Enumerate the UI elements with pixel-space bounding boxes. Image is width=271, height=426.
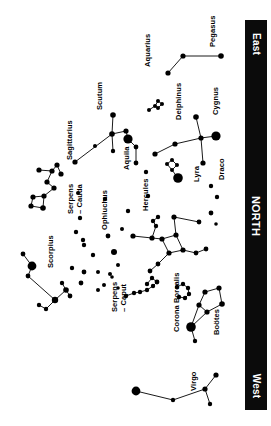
star-dot (134, 145, 139, 150)
horizon-label-north: NORTH (250, 196, 262, 236)
star-dot (151, 219, 155, 223)
star-dot (63, 287, 69, 293)
star-dot (109, 131, 115, 137)
star-dot (208, 402, 212, 406)
constellation-serpens-caput (124, 276, 160, 298)
star-dot (81, 238, 85, 242)
star-dot (197, 220, 202, 225)
star-dot (173, 173, 183, 183)
star-dot (159, 236, 164, 241)
star-dot (30, 194, 35, 199)
constellation-label: Corona Borealis (173, 273, 182, 332)
star-dot (26, 274, 31, 279)
constellation-label: Hercules (142, 179, 151, 212)
constellation-label: Scorpius (47, 235, 56, 268)
star-dot (209, 211, 214, 216)
star-dot (155, 280, 160, 285)
star-dot (106, 234, 111, 239)
constellation-line (205, 375, 216, 389)
horizon-label-east: East (251, 33, 262, 55)
constellation-delphinus (147, 99, 164, 112)
star-chart: PegasusAquariusScutumAquilaDelphinusCygn… (0, 0, 271, 426)
constellation-line (174, 217, 199, 222)
star-dot (193, 114, 199, 120)
constellation-label: Lyra (193, 166, 202, 182)
star-dot (41, 193, 46, 198)
constellation-label: Aquarius (144, 34, 153, 67)
star-dot (126, 209, 130, 213)
constellation-label: Draco (218, 158, 227, 180)
star-dot (152, 151, 157, 156)
constellation-label: Boötes (213, 309, 222, 335)
star-dot (156, 106, 160, 110)
constellation-label: Ophiuchus (101, 190, 110, 230)
star-dot (70, 266, 74, 270)
star-dot (134, 161, 139, 166)
constellation-hercules (130, 214, 208, 273)
constellation-cygnus (152, 114, 220, 165)
star-dot (180, 53, 185, 58)
constellation-lyra (165, 158, 183, 183)
star-dot (37, 303, 41, 307)
star-dot (172, 141, 177, 146)
constellation-label: Aquila (123, 146, 132, 170)
star-dot (202, 386, 207, 391)
constellation-label: Pegasus (209, 15, 218, 47)
star-dot (170, 158, 174, 162)
star-dot (219, 301, 225, 307)
star-dot (44, 307, 48, 311)
star-dot (36, 167, 41, 172)
star-dot (132, 291, 136, 295)
star-dot (170, 168, 174, 172)
star-dot (150, 276, 154, 280)
star-dot (28, 262, 37, 271)
constellation-ophiuchus (70, 234, 117, 286)
star-dot (147, 108, 151, 112)
star-dot (215, 195, 219, 199)
star-dot (156, 215, 160, 219)
star-dot (28, 203, 33, 208)
constellation-label: Serpens – Cauda (67, 184, 84, 214)
constellation-line (155, 144, 175, 154)
star-dot (183, 296, 187, 300)
star-dot (91, 253, 95, 257)
star-dot (171, 214, 176, 219)
star-dot (154, 224, 158, 228)
star-dot (116, 263, 120, 267)
star-dot (148, 269, 153, 274)
star-dot (79, 281, 84, 286)
constellation-serpens-cauda (74, 216, 85, 242)
star-dot (40, 205, 46, 211)
star-dot (173, 232, 178, 237)
star-dot (160, 102, 164, 106)
constellation-line (201, 138, 203, 163)
constellation-sagittarius (28, 162, 63, 210)
star-dot (96, 270, 100, 274)
star-dot (165, 162, 169, 166)
constellation-label: Scutum (96, 82, 105, 110)
star-dot (180, 247, 185, 252)
star-dot (78, 216, 82, 220)
star-dot (74, 230, 78, 234)
star-dot (200, 160, 205, 165)
constellation-line (136, 391, 173, 400)
constellation-virgo (132, 372, 219, 406)
star-dot (145, 288, 149, 292)
horizon-bar: East NORTH West (245, 20, 267, 410)
star-dot (166, 250, 171, 255)
constellation-label: Delphinus (175, 83, 184, 120)
star-dot (111, 249, 117, 255)
star-dot (156, 262, 161, 267)
constellation-line (196, 117, 201, 138)
star-dot (156, 99, 160, 103)
star-dot (209, 184, 213, 188)
star-dot (149, 235, 154, 240)
star-dot (96, 288, 100, 292)
star-dot (194, 251, 199, 256)
constellation-label: Virgo (190, 371, 199, 391)
star-dot (186, 286, 190, 290)
constellation-label: Serpens – Caput (111, 282, 128, 312)
star-dot (214, 222, 218, 226)
star-dot (60, 281, 64, 285)
star-dot (82, 243, 86, 247)
